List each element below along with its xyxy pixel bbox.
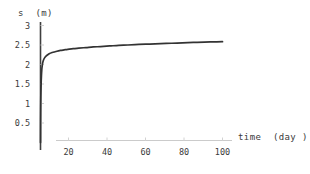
y-tick-label: 1	[8, 99, 30, 109]
y-tick-label: 2.5	[8, 40, 30, 50]
x-tick-label: 100	[215, 147, 230, 157]
plot-canvas	[0, 0, 310, 174]
x-tick-label: 80	[179, 147, 189, 157]
x-tick-label: 20	[63, 147, 73, 157]
x-tick-label: 60	[140, 147, 150, 157]
chart-figure: s (m) time (day ) 3 2.5 2 1.5 1 0.5 20 4…	[0, 0, 310, 174]
data-curve	[41, 42, 223, 143]
y-tick-label: 2	[8, 60, 30, 70]
x-axis-title: time (day )	[238, 132, 308, 142]
y-tick-label: 0.5	[8, 118, 30, 128]
y-tick-label: 1.5	[8, 79, 30, 89]
y-tick-label: 3	[8, 21, 30, 31]
x-tick-label: 40	[102, 147, 112, 157]
y-axis-title: s (m)	[18, 8, 53, 18]
